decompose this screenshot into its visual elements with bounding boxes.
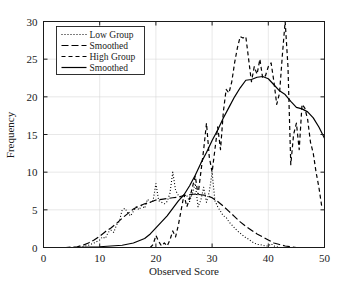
y-tick-label: 15: [27, 129, 39, 141]
y-tick-label: 25: [27, 53, 39, 65]
y-tick-label: 30: [27, 16, 39, 28]
x-tick-label: 50: [319, 252, 331, 264]
chart-legend: Low GroupSmoothedHigh GroupSmoothed: [57, 27, 145, 75]
x-tick-label: 40: [263, 252, 275, 264]
y-axis-title: Frequency: [4, 111, 16, 158]
y-tick-label: 0: [32, 242, 38, 254]
x-tick-label: 10: [94, 252, 106, 264]
x-tick-label: 30: [207, 252, 219, 264]
figure-container: 01020304050051015202530 Observed Score F…: [0, 0, 345, 290]
legend-label-4: Smoothed: [90, 63, 129, 73]
x-tick-label: 0: [41, 252, 47, 264]
y-tick-label: 5: [32, 204, 38, 216]
y-tick-label: 10: [27, 166, 39, 178]
y-tick-label: 20: [27, 91, 39, 103]
chart-canvas: 01020304050051015202530 Observed Score F…: [0, 0, 345, 290]
x-tick-label: 20: [150, 252, 162, 264]
x-axis-title: Observed Score: [149, 265, 219, 277]
legend-label-2: Smoothed: [90, 41, 129, 51]
legend-label-3: High Group: [90, 52, 136, 62]
legend-label-1: Low Group: [90, 30, 134, 40]
